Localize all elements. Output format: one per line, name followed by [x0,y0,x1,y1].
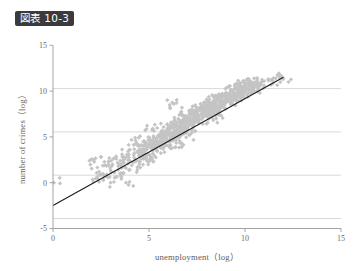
scatter-point [141,162,145,166]
scatter-point [174,141,178,145]
scatter-point [58,176,62,180]
scatter-point [138,165,142,169]
scatter-point [159,151,163,155]
x-tick-label: 0 [51,234,55,243]
scatter-point [120,147,124,151]
scatter-point [90,166,94,170]
y-tick-label: 0 [43,179,47,188]
scatter-point [153,123,157,127]
scatter-point [162,125,166,129]
scatter-point [175,98,179,102]
scatter-plot: -5051015 051015 unemployment（log） number… [0,0,354,271]
x-tick-label: 5 [147,234,151,243]
scatter-point [108,185,112,189]
scatter-point [133,136,137,140]
scatter-point [191,138,195,142]
y-tick-label: 5 [43,133,47,142]
scatter-point [95,165,99,169]
y-axis-title: number of crimes（log） [17,90,27,184]
scatter-point [275,83,279,87]
scatter-point [127,143,131,147]
y-tick-label: 10 [39,87,47,96]
scatter-point [129,138,133,142]
scatter-point [184,135,188,139]
scatter-point [88,163,92,167]
scatter-point [131,184,135,188]
x-tick-label: 15 [337,234,345,243]
figure-container: 図表 10-3 -5051015 051015 unemployment（log… [0,0,354,271]
scatter-point [109,181,113,185]
scatter-point [155,126,159,130]
scatter-point [132,147,136,151]
y-axis-ticks: -5051015 [39,41,53,233]
scatter-point [215,121,219,125]
x-tick-label: 10 [241,234,249,243]
x-axis-title: unemployment（log） [155,252,239,262]
y-tick-label: 15 [39,41,47,50]
scatter-point [102,160,106,164]
scatter-point [159,121,163,125]
scatter-point [99,155,103,159]
scatter-point [165,98,169,102]
y-tick-label: -5 [40,224,47,233]
scatter-point [145,124,149,128]
scatter-point [112,180,116,184]
scatter-point [180,106,184,110]
regression-line [53,77,283,205]
scatter-point [58,181,62,185]
x-axis-ticks: 051015 [51,229,345,243]
